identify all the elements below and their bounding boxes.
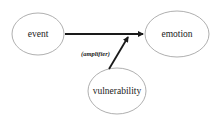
amplifier-label: (amplifier) <box>81 50 110 58</box>
emotion-label: emotion <box>161 29 192 39</box>
vulnerability-label: vulnerability <box>93 86 142 96</box>
node-vulnerability: vulnerability <box>88 68 146 114</box>
node-event: event <box>12 13 64 55</box>
event-label: event <box>28 29 49 39</box>
diagram-canvas: event emotion vulnerability (amplifier) <box>0 0 212 120</box>
node-emotion: emotion <box>145 11 209 57</box>
edge-vulnerability-amplifier <box>109 37 128 69</box>
